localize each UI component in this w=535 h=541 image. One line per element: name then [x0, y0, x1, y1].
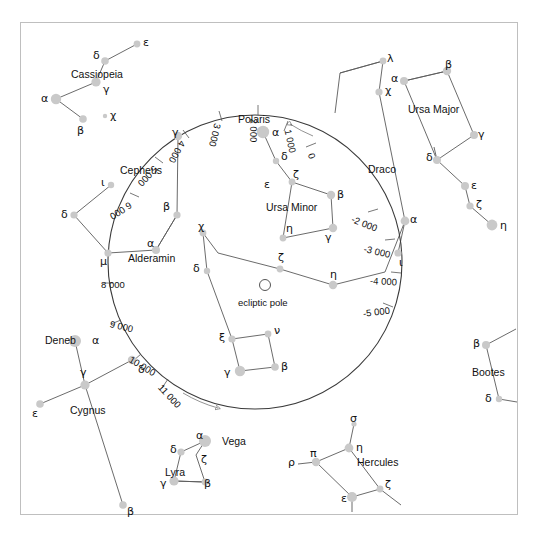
star-name-deneb: Deneb — [45, 334, 76, 346]
star-label-draco-zeta: ζ — [278, 251, 284, 264]
star-label-cassiopeia-alpha: α — [41, 92, 48, 105]
star-label-ursaminor-eta: η — [286, 222, 293, 235]
star-label-draco-lambda: λ — [387, 52, 394, 65]
star-label-ursamajor-delta: δ — [426, 151, 433, 164]
star-label-bootes-delta: δ — [485, 392, 492, 405]
star-label-cassiopeia-gamma: γ — [103, 83, 110, 96]
constellation-label-draco: Draco — [368, 163, 396, 175]
star-label-lyra-gamma: γ — [160, 477, 167, 490]
ecliptic-pole-marker — [260, 280, 271, 291]
star-label-hercules-zeta: ζ — [385, 478, 391, 491]
precession-tick-8000: 8 000 — [101, 279, 125, 290]
star-label-cepheus-alpha: α — [147, 237, 154, 250]
star-label-hercules-pi: π — [310, 447, 317, 460]
ecliptic-pole-label: ecliptic pole — [238, 297, 288, 308]
star-label-hercules-sigma: σ — [350, 412, 357, 425]
star-label-cepheus-delta: δ — [61, 208, 68, 221]
star-label-draco-eta: η — [330, 268, 337, 281]
constellation-label-ursa-major: Ursa Major — [408, 103, 459, 115]
star-label-cassiopeia-epsilon: ε — [143, 36, 149, 49]
star-name-alderamin: Alderamin — [128, 252, 175, 264]
star-label-cassiopeia-beta: β — [77, 124, 84, 137]
star-label-draco-beta: β — [281, 360, 288, 373]
constellation-label-cassiopeia: Cassiopeia — [71, 68, 123, 80]
star-label-ursamajor-alpha: α — [391, 72, 398, 85]
star-label-draco-gamma: γ — [224, 366, 231, 379]
star-label-draco-alpha: α — [410, 213, 417, 226]
star-name-vega: Vega — [222, 435, 246, 447]
star-label-hercules-eta: η — [356, 441, 363, 454]
star-label-draco-chi2: χ — [198, 220, 204, 233]
star-label-cepheus-mu: μ — [100, 255, 107, 268]
precession-tick-2000: 2 000 — [248, 118, 259, 142]
constellation-label-lyra: Lyra — [165, 466, 185, 478]
precession-tick--4000: -4 000 — [370, 275, 397, 287]
star-label-draco-delta: δ — [193, 262, 200, 275]
constellation-label-cygnus: Cygnus — [70, 404, 106, 416]
star-label-ursaminor-epsilon: ε — [264, 178, 270, 191]
star-label-cygnus-beta: β — [127, 505, 134, 518]
star-label-hercules-rho: ρ — [288, 456, 295, 469]
star-label-ursamajor-zeta: ζ — [476, 198, 482, 211]
star-label-ursaminor-zeta: ζ — [293, 168, 299, 181]
constellation-label-ursa-minor: Ursa Minor — [266, 201, 317, 213]
star-label-ursamajor-beta: β — [445, 58, 452, 71]
star-label-lyra-beta: β — [204, 477, 211, 490]
star-label-cygnus-epsilon: ε — [32, 407, 38, 420]
figure-canvas: ε δ Cassiopeia γ α β χ Cepheus ι δ μ α A… — [0, 0, 535, 541]
star-label-ursaminor-alpha: α — [272, 126, 279, 139]
star-label-ursamajor-epsilon: ε — [471, 179, 477, 192]
star-label-cepheus-beta: β — [163, 200, 170, 213]
star-label-lyra-delta: δ — [170, 443, 177, 456]
star-label-cygnus-gamma: γ — [80, 366, 87, 379]
star-label-hercules-epsilon: ε — [341, 492, 347, 505]
star-label-cassiopeia-delta: δ — [93, 49, 100, 62]
constellation-label-bootes: Bootes — [472, 366, 505, 378]
star-label-lyra-zeta: ζ — [201, 453, 207, 466]
star-label-cygnus-alpha: α — [92, 334, 99, 347]
star-label-chi: χ — [110, 109, 116, 122]
star-label-ursamajor-eta: η — [500, 219, 507, 232]
star-label-cepheus-iota: ι — [101, 176, 105, 189]
star-label-draco-chi: χ — [385, 84, 391, 97]
star-label-cepheus-gamma: γ — [172, 126, 179, 139]
precession-direction-arrow-lower — [183, 393, 218, 408]
star-label-draco-nu: ν — [274, 324, 280, 337]
star-label-bootes-beta: β — [473, 337, 480, 350]
sky-chart — [0, 0, 535, 541]
star-label-draco-iota: ι — [399, 256, 403, 269]
star-label-ursaminor-beta: β — [337, 188, 344, 201]
star-label-ursamajor-gamma: γ — [478, 128, 485, 141]
star-label-draco-xi: ξ — [219, 331, 225, 344]
star-label-ursaminor-gamma: γ — [325, 231, 332, 244]
constellation-label-hercules: Hercules — [357, 456, 398, 468]
star-label-lyra-alpha: α — [196, 429, 203, 442]
